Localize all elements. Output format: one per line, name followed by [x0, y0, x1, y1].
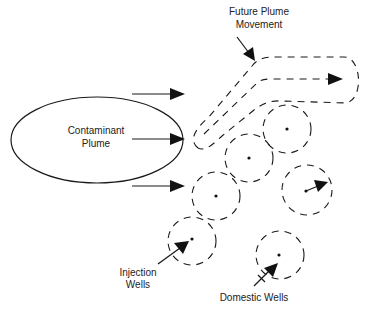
injection-wells-label-2: Wells — [126, 279, 150, 290]
contaminant-plume-label-2: Plume — [82, 138, 111, 149]
capture-zone-4 — [282, 165, 332, 215]
injection-pointer-shaft — [158, 248, 180, 264]
flow-arrow-bottom — [132, 180, 185, 192]
domestic-well-dot — [277, 253, 280, 256]
capture-zone-2 — [225, 134, 273, 182]
future-plume-pointer-arrowhead-icon — [243, 47, 255, 61]
domestic-pointer-shaft — [254, 270, 270, 286]
future-plume-pointer-shaft — [237, 37, 249, 53]
plume-diagram: Contaminant Plume Future Plume Movement — [0, 0, 369, 309]
well-dot — [247, 156, 250, 159]
future-plume-label-2: Movement — [236, 19, 283, 30]
capture-zone-3 — [192, 172, 240, 220]
injection-well-circle — [168, 217, 216, 265]
well-dot — [285, 127, 288, 130]
future-plume-outline — [193, 57, 358, 149]
future-plume-label-1: Future Plume — [229, 6, 289, 17]
contaminant-plume: Contaminant Plume — [11, 97, 183, 183]
flow-arrow-top — [132, 88, 185, 100]
arrowhead-icon — [170, 88, 185, 100]
injection-wells-label-1: Injection — [119, 267, 156, 278]
flow-arrow-middle — [132, 133, 185, 145]
injection-pointer-arrowhead-icon — [174, 241, 189, 254]
contaminant-plume-label-1: Contaminant — [68, 125, 125, 136]
injection-well: Injection Wells — [119, 217, 216, 290]
future-plume-movement: Future Plume Movement — [193, 6, 358, 149]
outflow-arrowhead-icon — [314, 180, 328, 192]
domestic-wells-label: Domestic Wells — [220, 292, 289, 303]
domestic-well: Domestic Wells — [220, 231, 304, 303]
future-plume-arrowhead-icon — [328, 73, 343, 85]
arrowhead-icon — [170, 180, 185, 192]
injection-well-dot — [190, 237, 193, 240]
outflow-arrow-shaft — [306, 186, 318, 191]
capture-zone-1 — [263, 105, 311, 153]
well-dot — [214, 194, 217, 197]
